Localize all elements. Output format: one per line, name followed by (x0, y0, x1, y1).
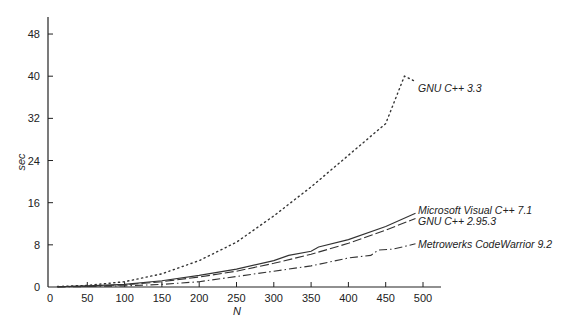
x-axis-title: N (233, 305, 241, 317)
series-line-0 (58, 76, 416, 286)
x-tick-label: 250 (227, 292, 245, 304)
y-tick-label: 48 (28, 28, 40, 40)
x-tick-label: 450 (377, 292, 395, 304)
plot-area (58, 76, 416, 287)
x-tick-label: 150 (153, 292, 171, 304)
x-tick-label: 0 (47, 292, 53, 304)
y-axis-title: sec (15, 153, 27, 171)
x-tick-label: 50 (81, 292, 93, 304)
x-tick-label: 350 (302, 292, 320, 304)
x-tick-label: 300 (265, 292, 283, 304)
series-label: GNU C++ 2.95.3 (418, 215, 496, 227)
series-label: GNU C++ 3.3 (418, 82, 482, 94)
x-tick-label: 200 (190, 292, 208, 304)
y-tick-label: 24 (28, 155, 40, 167)
series-line-3 (58, 244, 416, 287)
x-tick-label: 100 (115, 292, 133, 304)
series-label: Metrowerks CodeWarrior 9.2 (418, 238, 552, 250)
x-tick-label: 400 (339, 292, 357, 304)
y-tick-label: 0 (34, 281, 40, 293)
compile-time-chart: 0816243240480501001502002503003504004505… (0, 0, 561, 333)
y-tick-label: 8 (34, 239, 40, 251)
series-line-1 (58, 213, 416, 287)
series-line-2 (58, 219, 416, 287)
y-tick-label: 16 (28, 197, 40, 209)
series-labels: GNU C++ 3.3Microsoft Visual C++ 7.1GNU C… (418, 82, 552, 250)
x-tick-label: 500 (414, 292, 432, 304)
y-tick-label: 40 (28, 70, 40, 82)
y-tick-label: 32 (28, 112, 40, 124)
